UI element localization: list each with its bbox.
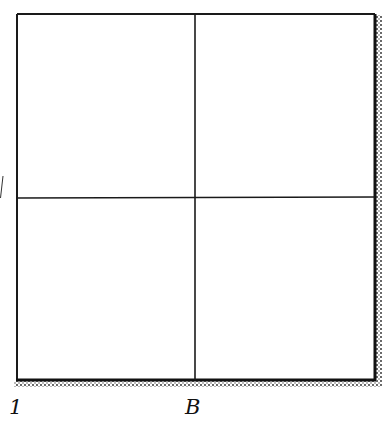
diagram-svg (0, 0, 383, 424)
partial-glyph (0, 176, 4, 198)
quadrant-diagram: 1 B (0, 0, 383, 424)
label-1: 1 (9, 397, 22, 418)
label-b: B (185, 397, 200, 418)
horizontal-divider (17, 197, 375, 198)
